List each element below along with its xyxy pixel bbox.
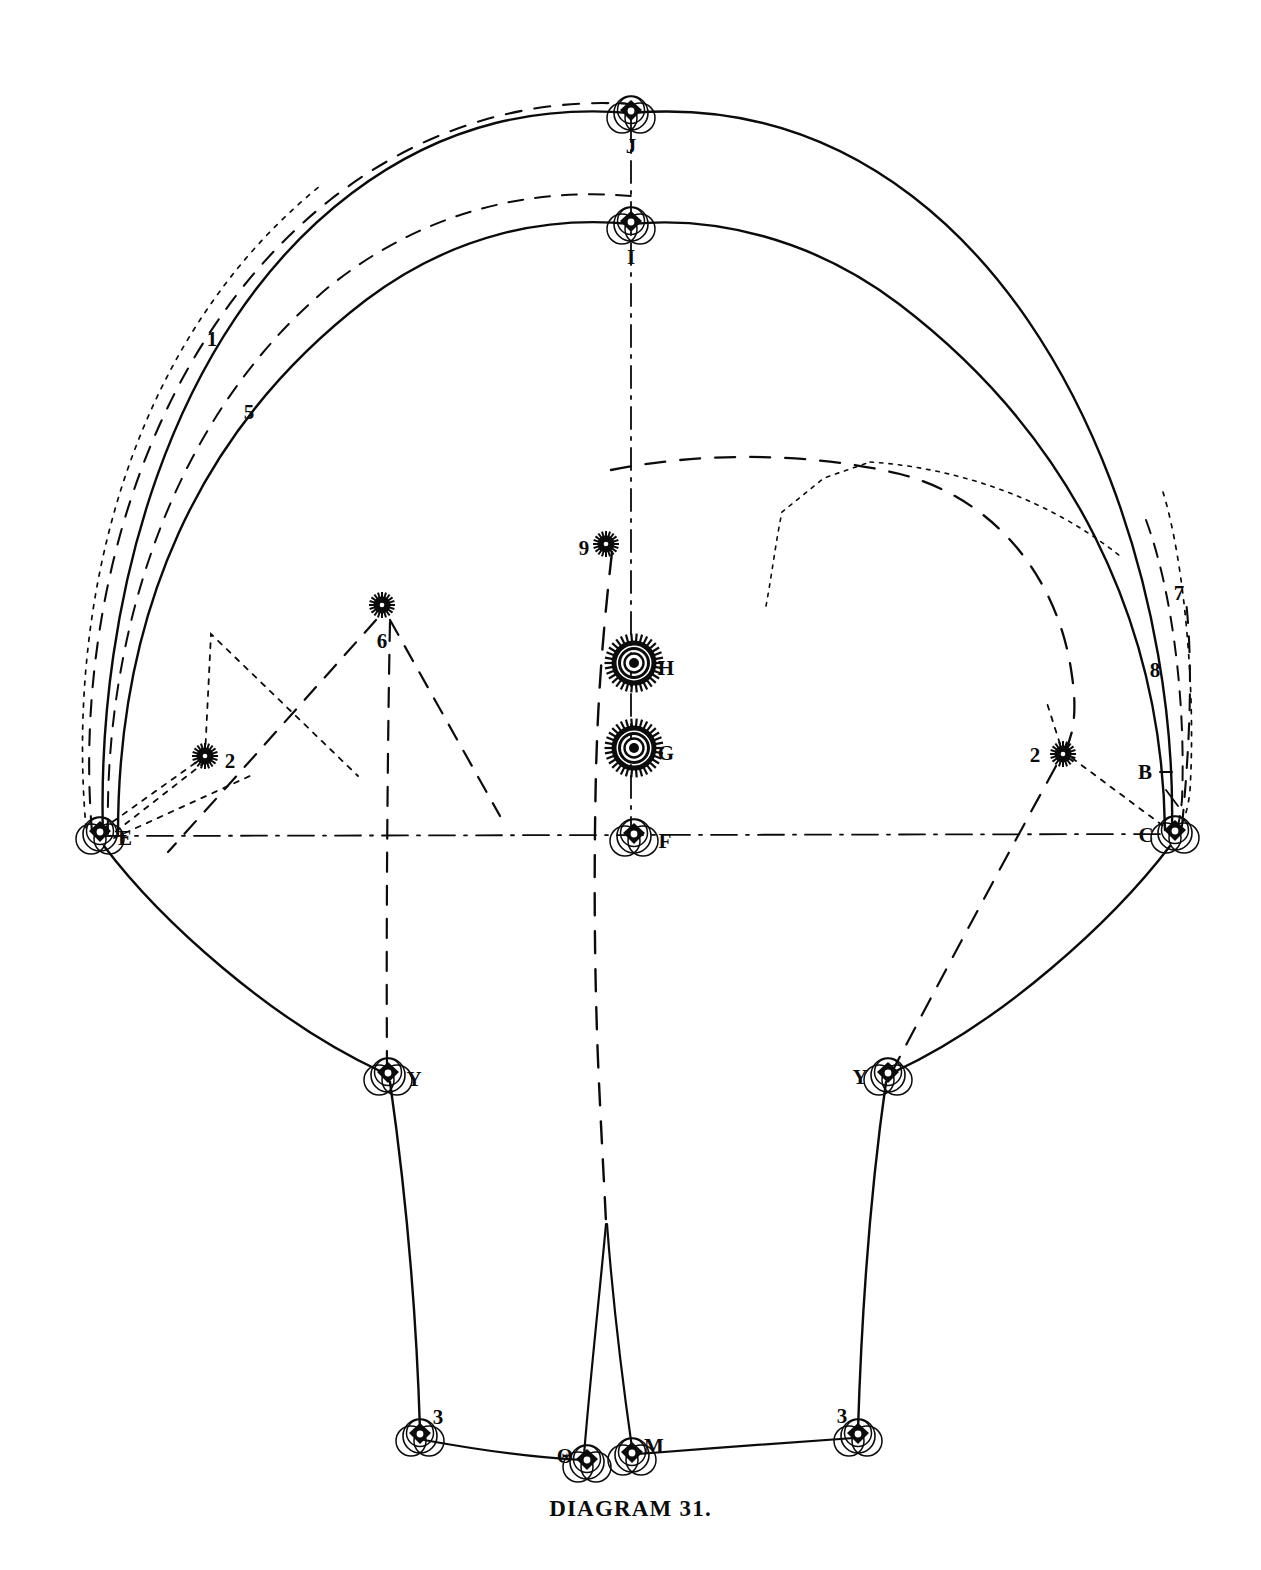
node-I-label: I: [627, 245, 635, 269]
node-star-9[interactable]: [593, 531, 619, 557]
diagram-31-figure: JI96HG22FECYY33ΘM 1578B: [0, 0, 1261, 1570]
pulley-icon: [610, 819, 658, 856]
node-G-label: G: [658, 741, 674, 765]
node-H[interactable]: [605, 634, 664, 693]
shroud-dashed-outer-left: [89, 103, 631, 832]
node-left-2[interactable]: [192, 743, 218, 769]
node-E-label: E: [118, 826, 132, 850]
center-v-right: [607, 1224, 632, 1448]
shoulder-right: [894, 846, 1170, 1072]
annot-1: 1: [207, 327, 218, 351]
annot-B: B: [1138, 760, 1152, 784]
pulley-icon: [864, 1058, 912, 1095]
star-node-icon: [1050, 741, 1076, 767]
shroud-dotted-right-7: [1163, 492, 1192, 834]
annot-8: 8: [1150, 658, 1161, 682]
right-dotted-2-up: [1046, 700, 1060, 744]
node-H-label: H: [658, 656, 674, 680]
pulley-icon: [1151, 816, 1199, 853]
node-I[interactable]: [607, 207, 655, 244]
node-theta-label: Θ: [557, 1444, 573, 1468]
node-M-label: M: [644, 1434, 664, 1458]
leg-right: [858, 1082, 886, 1430]
node-E[interactable]: [76, 817, 124, 854]
node-star-6-label: 6: [377, 629, 388, 653]
figure-caption: DIAGRAM 31.: [0, 1496, 1261, 1522]
node-Y-right[interactable]: [864, 1058, 912, 1095]
node-F-label: F: [659, 829, 672, 853]
node-Y-left[interactable]: [364, 1058, 412, 1095]
shoulder-left: [104, 846, 382, 1072]
rigging-dashed-right-lower: [894, 766, 1056, 1068]
node-foot-left-label: 3: [433, 1405, 444, 1429]
gear-hub-icon: [605, 719, 664, 778]
annot-5: 5: [244, 400, 255, 424]
pulley-icon: [76, 817, 124, 854]
node-right-2-label: 2: [1030, 743, 1041, 767]
left-dash-v-right-leg: [390, 620, 500, 816]
node-right-2[interactable]: [1050, 741, 1076, 767]
node-Y-right-label: Y: [852, 1065, 867, 1089]
pulley-icon: [364, 1058, 412, 1095]
center-v-left: [584, 1224, 606, 1455]
annot-7: 7: [1174, 581, 1185, 605]
node-foot-right-label: 3: [837, 1404, 848, 1428]
interior-dotted-upper: [766, 462, 870, 606]
node-G[interactable]: [605, 719, 664, 778]
leg-left: [390, 1082, 420, 1430]
node-star-9-label: 9: [579, 536, 590, 560]
node-C[interactable]: [1151, 816, 1199, 853]
diagram-canvas: JI96HG22FECYY33ΘM 1578B DIAGRAM 31.: [0, 0, 1261, 1570]
bottom-rim-right: [638, 1438, 854, 1454]
shroud-dotted-left: [82, 186, 320, 828]
star-node-icon: [192, 743, 218, 769]
node-Y-left-label: Y: [406, 1067, 421, 1091]
left-dash-v-left-leg: [168, 620, 376, 852]
node-F[interactable]: [610, 819, 658, 856]
pulley-icon: [607, 207, 655, 244]
node-J-label: J: [626, 134, 637, 158]
star-node-icon: [593, 531, 619, 557]
shroud-dashed-inner-left: [108, 194, 631, 834]
node-left-2-label: 2: [225, 749, 236, 773]
node-C-label: C: [1138, 823, 1153, 847]
rigging-dashed-left-lower: [387, 622, 390, 1068]
interior-dashed-arc: [611, 457, 1074, 754]
gear-hub-icon: [605, 634, 664, 693]
node-star-6[interactable]: [369, 592, 395, 618]
star-node-icon: [369, 592, 395, 618]
